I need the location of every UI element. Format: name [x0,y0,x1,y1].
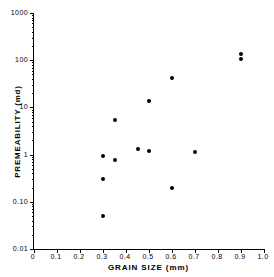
data-point [101,154,105,158]
y-axis-title: PREMEABILITY (md) [11,13,24,250]
y-minor-tick-mark [32,179,34,180]
y-minor-tick-mark [32,169,34,170]
y-minor-tick-mark [32,226,34,227]
data-point [239,57,243,61]
y-minor-tick-mark [32,173,34,174]
y-minor-tick-mark [32,27,34,28]
y-minor-tick-mark [32,140,34,141]
x-tick-label: 0.3 [97,252,108,261]
y-minor-tick-mark [32,122,34,123]
x-tick-label: 0.6 [166,252,177,261]
y-minor-tick-mark [32,46,34,47]
y-minor-tick-mark [32,20,34,21]
y-minor-tick-mark [32,68,34,69]
x-tick-label: 0.7 [189,252,200,261]
data-point [101,214,105,218]
y-minor-tick-mark [32,15,34,16]
y-minor-tick-mark [32,38,34,39]
data-point [147,149,151,153]
x-tick-label: 1.0 [258,252,269,261]
data-point [101,177,105,181]
y-tick-mark [30,60,34,61]
y-minor-tick-mark [32,74,34,75]
y-minor-tick-mark [32,23,34,24]
data-point [113,118,117,122]
x-tick-label: 0.4 [120,252,131,261]
y-minor-tick-mark [32,157,34,158]
x-tick-label: 0 [31,252,35,261]
y-minor-tick-mark [32,126,34,127]
x-tick-label: 0.5 [143,252,154,261]
y-minor-tick-mark [32,110,34,111]
y-minor-tick-mark [32,85,34,86]
y-minor-tick-mark [32,71,34,72]
y-tick-mark [30,107,34,108]
y-tick-label: 1 [24,151,28,159]
y-minor-tick-mark [32,216,34,217]
x-tick-label: 0.1 [51,252,62,261]
x-tick-label: 0.9 [235,252,246,261]
y-minor-tick-mark [32,162,34,163]
y-minor-tick-mark [32,159,34,160]
y-minor-tick-mark [32,188,34,189]
data-point [136,147,140,151]
y-minor-tick-mark [32,79,34,80]
y-tick-mark [30,155,34,156]
y-tick-mark [30,13,34,14]
y-minor-tick-mark [32,93,34,94]
y-minor-tick-mark [32,221,34,222]
y-minor-tick-mark [32,112,34,113]
x-tick-label: 0.2 [74,252,85,261]
y-minor-tick-mark [32,206,34,207]
y-minor-tick-mark [32,18,34,19]
y-minor-tick-mark [32,209,34,210]
y-minor-tick-mark [32,32,34,33]
x-tick-label: 0.8 [212,252,223,261]
x-axis-title: GRAIN SIZE (mm) [33,263,264,272]
y-minor-tick-mark [32,132,34,133]
plot-area [33,13,264,250]
y-minor-tick-mark [32,62,34,63]
data-point [170,186,174,190]
scatter-plot-figure: 10001001010.100.01 PREMEABILITY (md) 00.… [0,0,274,277]
data-point [170,76,174,80]
y-minor-tick-mark [32,235,34,236]
y-minor-tick-mark [32,65,34,66]
y-minor-tick-mark [32,115,34,116]
data-point [193,150,197,154]
data-point [147,99,151,103]
y-minor-tick-mark [32,165,34,166]
y-minor-tick-mark [32,212,34,213]
data-point [239,52,243,56]
y-minor-tick-mark [32,204,34,205]
y-tick-mark [30,202,34,203]
y-minor-tick-mark [32,118,34,119]
data-point [113,158,117,162]
